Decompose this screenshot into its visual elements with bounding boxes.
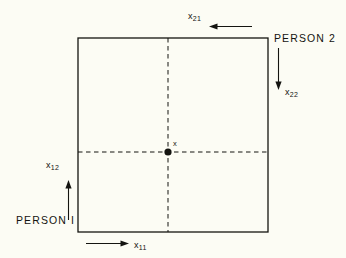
person-2-label: PERSON 2 <box>274 33 336 44</box>
axis-label-x11-symbol: x <box>134 240 139 250</box>
axis-label-x22-subscript: 22 <box>290 91 299 98</box>
person-1-label: PERSON I <box>16 215 75 226</box>
axis-label-x22: x22 <box>285 88 298 97</box>
axis-label-x21: x21 <box>188 12 201 21</box>
axis-label-x22-symbol: x <box>285 87 290 97</box>
axis-label-x11-subscript: 11 <box>139 244 147 251</box>
axis-label-x21-subscript: 21 <box>193 15 202 22</box>
axis-label-x12-subscript: 12 <box>51 164 60 171</box>
allocation-point-label: x <box>173 140 177 148</box>
axis-label-x12: x12 <box>46 161 59 170</box>
allocation-point-dot <box>164 148 171 155</box>
axis-label-x21-symbol: x <box>188 11 193 21</box>
axis-label-x11: x11 <box>134 241 147 250</box>
axis-label-x12-symbol: x <box>46 160 51 170</box>
